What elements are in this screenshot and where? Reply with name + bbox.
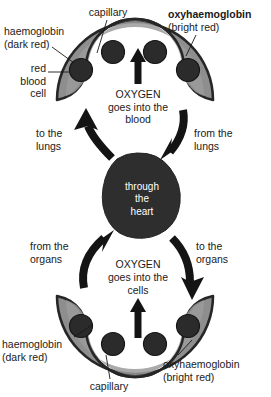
top-oxygen-line2: goes into the <box>83 101 193 114</box>
label-oxyhaemoglobin-bottom: oxyhaemoglobin <box>163 358 269 371</box>
blood-cell <box>144 333 167 356</box>
bottom-oxygen-arrow <box>130 298 146 338</box>
label-capillary-top: capillary <box>78 6 138 19</box>
blood-cell <box>102 41 125 64</box>
blood-cell <box>102 333 125 356</box>
label-haemoglobin-bottom: haemoglobin (dark red) <box>2 338 94 363</box>
blood-cell <box>177 315 200 338</box>
bottom-oxygen-line2: goes into the <box>83 271 193 284</box>
blood-cell <box>70 315 93 338</box>
label-from-the-lungs: from the lungs <box>194 127 264 152</box>
top-oxygen-line3: blood <box>83 113 193 126</box>
label-capillary-bottom: capillary <box>78 380 140 393</box>
label-red-blood-cell: red blood cell <box>2 62 46 100</box>
label-to-the-lungs: to the lungs <box>36 127 96 152</box>
heart-label-line1: through <box>108 181 176 194</box>
label-haemoglobin-top: haemoglobin (dark red) <box>4 25 94 50</box>
label-oxyhaemoglobin-top-sub: (bright red) <box>168 21 268 34</box>
label-oxyhaemoglobin-bottom-sub: (bright red) <box>163 371 269 384</box>
bottom-oxygen-line3: cells <box>83 284 193 297</box>
heart-label-line3: heart <box>108 206 176 219</box>
label-to-the-organs: to the organs <box>196 240 258 265</box>
blood-cell <box>177 59 200 82</box>
oxygen-circulation-diagram: capillary haemoglobin (dark red) red blo… <box>0 0 271 397</box>
heart-label-line2: the <box>108 193 176 206</box>
bottom-oxygen-line1: OXYGEN <box>83 258 193 271</box>
label-oxyhaemoglobin-top: oxyhaemoglobin <box>168 8 268 21</box>
blood-cell <box>144 41 167 64</box>
top-oxygen-line1: OXYGEN <box>83 88 193 101</box>
